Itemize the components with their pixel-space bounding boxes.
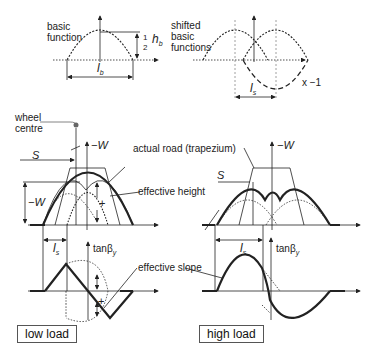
neg-w-amplitude: −W	[28, 197, 45, 208]
ls-right-label: ls	[240, 243, 246, 258]
length-lb-label: lb	[97, 63, 104, 78]
high-load-badge: high load	[199, 325, 264, 343]
ls-left-label: ls	[53, 243, 59, 258]
h-symbol: h	[152, 32, 159, 46]
b-subscript: b	[159, 40, 163, 47]
axis-neg-w-right: −W	[277, 140, 294, 151]
basic-function-label: basic function	[47, 21, 82, 43]
b-subscript: b	[100, 69, 104, 76]
plus-sign-middle: +	[99, 198, 105, 209]
tan-beta-text: tanβ	[276, 243, 296, 254]
low-load-slope-plot	[28, 225, 158, 322]
multiplier-label: x −1	[302, 77, 321, 88]
s-distance-right: S	[217, 170, 224, 181]
y-subscript: y	[113, 249, 117, 256]
axis-neg-w-left: −W	[91, 140, 108, 151]
low-load-height-plot	[20, 122, 158, 230]
effective-slope-label: effective slope	[138, 262, 202, 273]
high-load-height-plot	[202, 142, 360, 230]
s-subscript: s	[243, 249, 247, 256]
tan-beta-right: tanβy	[276, 243, 299, 258]
effective-height-label: effective height	[138, 186, 205, 197]
tan-beta-text: tanβ	[93, 243, 113, 254]
diagram-canvas: basic function 1 2 hb lb shifted basic f…	[0, 0, 375, 352]
height-hb-label: hb	[152, 34, 163, 49]
s-distance-left: S	[32, 150, 39, 161]
half-numerator: 1	[143, 33, 147, 42]
high-load-slope-plot	[185, 225, 360, 320]
actual-road-label: actual road (trapezium)	[133, 143, 236, 154]
s-subscript: s	[56, 249, 60, 256]
y-subscript: y	[296, 249, 300, 256]
s-subscript: s	[253, 89, 257, 96]
plus-sign-bottom: +	[98, 296, 104, 307]
half-denominator: 2	[143, 42, 147, 53]
shifted-functions-label: shifted basic functions	[171, 20, 211, 53]
wheel-centre-label: wheel centre	[15, 112, 43, 134]
low-load-badge: low load	[17, 325, 77, 343]
tan-beta-left: tanβy	[93, 243, 116, 258]
shift-ls-label: ls	[250, 83, 256, 98]
